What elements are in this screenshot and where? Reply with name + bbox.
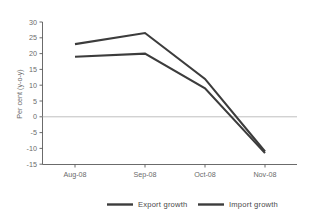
- y-tick-label: 0: [33, 112, 37, 121]
- y-tick-label: 5: [33, 97, 37, 106]
- x-tick-label: Nov-08: [253, 170, 276, 179]
- x-axis-tick-labels: Aug-08 Sep-08 Oct-08 Nov-08: [63, 170, 276, 179]
- y-tick-label: 15: [29, 65, 37, 74]
- chart-figure: Per cent (y-o-y) 30 25 20 15 10 5 0 -5 -…: [0, 0, 315, 219]
- y-axis-title: Per cent (y-o-y): [15, 69, 24, 119]
- series-line-import-growth: [75, 54, 265, 154]
- y-tick-label: -15: [27, 160, 37, 169]
- x-tick-label: Oct-08: [194, 170, 216, 179]
- y-tick-label: -10: [27, 144, 37, 153]
- chart-legend: Export growth Import growth: [107, 200, 278, 209]
- x-tick-label: Sep-08: [133, 170, 156, 179]
- x-tick-label: Aug-08: [63, 170, 86, 179]
- series-line-export-growth: [75, 33, 265, 152]
- y-tick-label: 25: [29, 33, 37, 42]
- y-tick-label: 10: [29, 81, 37, 90]
- y-axis-tick-labels: 30 25 20 15 10 5 0 -5 -10 -15: [27, 18, 37, 169]
- legend-label-export-growth: Export growth: [138, 200, 187, 209]
- y-tick-label: 30: [29, 18, 37, 27]
- legend-label-import-growth: Import growth: [229, 200, 278, 209]
- y-tick-label: 20: [29, 49, 37, 58]
- line-chart-plot: Per cent (y-o-y) 30 25 20 15 10 5 0 -5 -…: [0, 0, 315, 219]
- y-tick-label: -5: [31, 128, 37, 137]
